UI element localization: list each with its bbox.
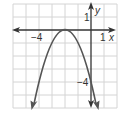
- x-axis-label: x: [108, 32, 115, 43]
- grid: [13, 4, 117, 108]
- x-tick-1: 1: [100, 32, 106, 43]
- y-axis-label: y: [94, 5, 101, 16]
- y-tick-neg4: −4: [77, 77, 89, 88]
- graph: −4 1 x 1 y −4: [0, 0, 123, 114]
- y-tick-1: 1: [84, 12, 90, 23]
- x-tick-neg4: −4: [31, 32, 43, 43]
